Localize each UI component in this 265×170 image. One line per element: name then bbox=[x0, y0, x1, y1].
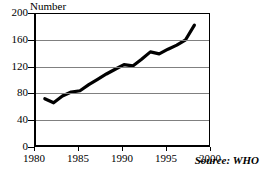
y-axis-ticks: 04080120160200 bbox=[0, 13, 34, 147]
gridline-40 bbox=[36, 120, 209, 121]
plot-area bbox=[34, 13, 210, 147]
chart-container: Number 04080120160200 198019851990199520… bbox=[0, 0, 265, 170]
y-tick-label-200: 200 bbox=[0, 7, 28, 18]
x-tick-label-1990: 1990 bbox=[102, 153, 142, 164]
x-tick-mark-1990 bbox=[122, 147, 123, 151]
y-tick-label-160: 160 bbox=[0, 34, 28, 45]
x-tick-mark-2000 bbox=[210, 147, 211, 151]
x-tick-mark-1985 bbox=[78, 147, 79, 151]
gridline-160 bbox=[36, 40, 209, 41]
gridline-80 bbox=[36, 93, 209, 94]
x-tick-mark-1995 bbox=[166, 147, 167, 151]
y-tick-label-120: 120 bbox=[0, 61, 28, 72]
data-line-series bbox=[36, 13, 212, 147]
y-axis-title: Number bbox=[30, 0, 66, 13]
gridline-120 bbox=[36, 67, 209, 68]
x-tick-mark-1980 bbox=[34, 147, 35, 151]
source-annotation: Source: WHO bbox=[195, 154, 259, 166]
y-tick-label-80: 80 bbox=[0, 87, 28, 98]
x-tick-label-1980: 1980 bbox=[14, 153, 54, 164]
gridline-200 bbox=[36, 13, 209, 14]
x-tick-label-1995: 1995 bbox=[146, 153, 186, 164]
x-tick-label-1985: 1985 bbox=[58, 153, 98, 164]
series-number-polyline bbox=[45, 25, 195, 103]
y-tick-label-40: 40 bbox=[0, 114, 28, 125]
